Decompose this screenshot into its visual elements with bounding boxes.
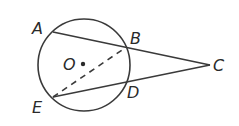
- label-c: C: [213, 56, 225, 75]
- label-a: A: [31, 19, 43, 38]
- diagram-canvas: A B C D E O: [0, 0, 239, 126]
- geometry-diagram: A B C D E O: [0, 0, 239, 126]
- center-point-o: [81, 62, 85, 66]
- label-o: O: [63, 55, 76, 74]
- label-d: D: [127, 83, 139, 102]
- label-b: B: [130, 29, 141, 48]
- label-e: E: [32, 98, 43, 117]
